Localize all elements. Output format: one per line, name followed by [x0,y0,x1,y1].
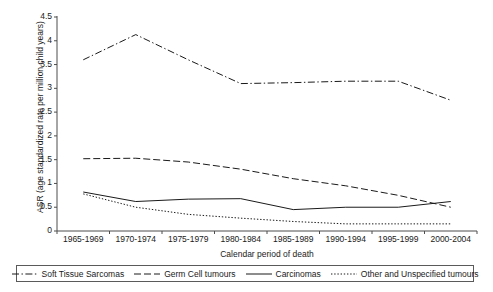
legend-swatch-solid-icon [246,270,272,278]
series-group [83,35,451,224]
chart-legend: Soft Tissue SarcomasGerm Cell tumoursCar… [16,265,474,282]
legend-label: Carcinomas [276,269,321,279]
legend-swatch-dashed-icon [134,270,160,278]
series-line-3 [83,194,451,224]
legend-item[interactable]: Germ Cell tumours [129,269,240,279]
axes-group [54,16,477,234]
x-tick-label: 2000-2004 [418,234,484,245]
legend-item[interactable]: Soft Tissue Sarcomas [7,269,130,279]
legend-swatch-dotted-icon [331,270,357,278]
line-chart: ASR (age standardized rate per million c… [0,0,493,292]
series-line-0 [83,35,451,101]
legend-label: Germ Cell tumours [164,269,235,279]
x-axis-title: Calendar period of death [57,249,477,259]
legend-item[interactable]: Other and Unspecified tumours [326,269,484,279]
series-line-1 [83,158,451,207]
legend-label: Soft Tissue Sarcomas [42,269,125,279]
legend-label: Other and Unspecified tumours [361,269,479,279]
legend-swatch-dash-dot-icon [12,270,38,278]
legend-item[interactable]: Carcinomas [241,269,326,279]
x-axis-tick-labels: 1965-19691970-19741975-19791980-19841985… [0,234,493,248]
